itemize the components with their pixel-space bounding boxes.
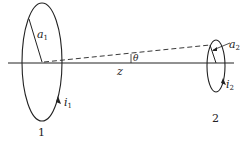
loop-2-radius-label: a2 bbox=[229, 38, 240, 52]
loop-1-radius-label: a1 bbox=[37, 28, 48, 42]
separation-dashed-line bbox=[44, 45, 210, 62]
loop-2-number: 2 bbox=[212, 112, 219, 125]
z-axis-label: z bbox=[116, 65, 123, 78]
loop-1-number: 1 bbox=[38, 126, 45, 139]
theta-label: θ bbox=[133, 53, 139, 63]
loop-1-current-label: i1 bbox=[64, 96, 72, 110]
loop-2-radius bbox=[210, 45, 216, 63]
loop-2-radius-pointer-arrow-icon bbox=[212, 47, 217, 51]
coaxial-loops-diagram: a1 i1 1 a2 i2 2 z θ bbox=[0, 0, 245, 143]
loop-2 bbox=[207, 40, 225, 92]
loop-2-current-label: i2 bbox=[226, 78, 234, 92]
